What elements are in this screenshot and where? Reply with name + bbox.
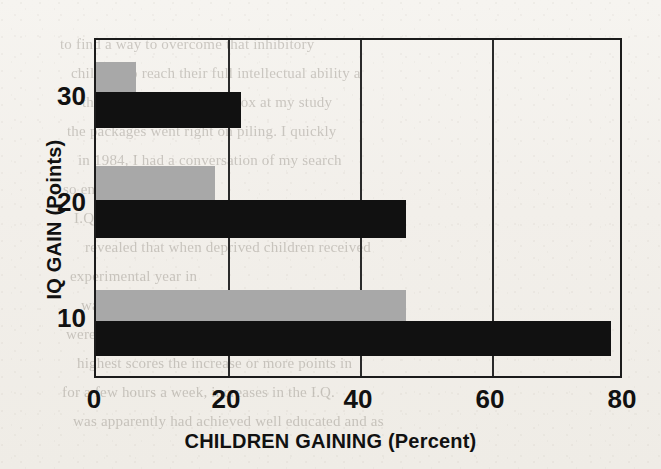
x-tick-40: 40	[344, 384, 373, 415]
bar-10-light	[96, 290, 406, 321]
x-axis-tick-labels: 020406080	[94, 384, 622, 418]
bar-30-light	[96, 62, 136, 92]
bar-chart-figure: 102030 020406080 CHILDREN GAINING (Perce…	[0, 0, 661, 469]
x-tick-20: 20	[212, 384, 241, 415]
x-tick-0: 0	[87, 384, 101, 415]
x-tick-80: 80	[608, 384, 637, 415]
bar-20-dark	[96, 200, 406, 238]
y-axis-label: IQ GAIN (Points)	[43, 70, 66, 370]
bar-10-dark	[96, 321, 611, 356]
bar-30-dark	[96, 92, 241, 128]
x-axis-label: CHILDREN GAINING (Percent)	[0, 430, 661, 453]
plot-area	[94, 38, 622, 378]
bar-20-light	[96, 166, 215, 200]
x-tick-60: 60	[476, 384, 505, 415]
